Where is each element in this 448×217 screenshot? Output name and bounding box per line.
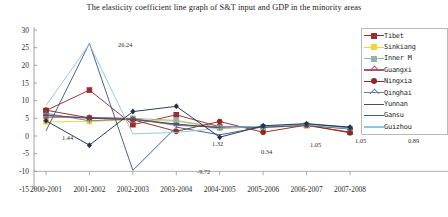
data-point-label: 1.05: [310, 141, 321, 148]
legend-item-label: Tibet: [384, 32, 404, 40]
legend-item-label: Qinghai: [384, 89, 412, 97]
data-point-label: 1.05: [355, 137, 366, 144]
data-point: [174, 113, 179, 118]
legend-item-label: Inner M: [384, 54, 412, 62]
legend-item-guizhou[interactable]: Guizhou: [362, 121, 447, 132]
legend-item-sinkiang[interactable]: Sinkiang: [362, 41, 447, 52]
legend-item-guangxi[interactable]: Guangxi: [362, 64, 447, 75]
legend-swatch-icon: [364, 122, 384, 131]
legend-swatch-icon: [364, 31, 384, 40]
legend-swatch-icon: [364, 65, 384, 74]
legend-swatch-icon: [364, 43, 384, 52]
y-tick-label: 20: [22, 61, 30, 70]
data-point-label: 26.24: [118, 41, 133, 48]
x-tick-label: 2001-2002: [73, 185, 105, 194]
legend-item-inner-m[interactable]: Inner M: [362, 53, 447, 64]
legend-item-yunnan[interactable]: Yunnan: [362, 98, 447, 109]
data-point: [217, 119, 222, 124]
x-tick-label: 2005-2006: [247, 185, 279, 194]
legend-item-gansu[interactable]: Gansu: [362, 110, 447, 121]
y-tick-label: 0: [25, 132, 29, 141]
data-point: [130, 109, 135, 115]
data-point: [173, 123, 179, 125]
data-point: [261, 130, 266, 135]
data-point: [131, 122, 136, 127]
legend-item-label: Guizhou: [384, 123, 412, 131]
data-point-label: 1.44: [62, 134, 74, 141]
data-point: [86, 118, 92, 120]
legend-swatch-icon: [364, 111, 384, 120]
x-tick-label: 2004-2005: [204, 185, 236, 194]
series-line: [46, 43, 350, 170]
data-point-label: 0.34: [261, 148, 273, 155]
series-gansu: [46, 43, 350, 170]
legend-swatch-icon: [364, 77, 384, 86]
y-tick-label: 15: [22, 79, 30, 88]
y-tick-label: -15: [19, 185, 29, 194]
legend-item-ningxia[interactable]: Ningxia: [362, 76, 447, 87]
legend-item-tibet[interactable]: Tibet: [362, 30, 447, 41]
legend-item-label: Gansu: [384, 111, 404, 119]
data-point: [87, 142, 92, 148]
data-point-label: 0.89: [408, 137, 419, 144]
legend-item-label: Guangxi: [384, 66, 412, 74]
legend-swatch-icon: [364, 88, 384, 97]
chart-legend: TibetSinkiangInner MGuangxiNingxiaQingha…: [361, 28, 448, 135]
data-point: [348, 130, 353, 135]
x-tick-label: 2006-2007: [291, 185, 323, 194]
y-tick-label: 30: [22, 26, 30, 35]
legend-item-label: Yunnan: [384, 100, 408, 108]
data-point: [87, 88, 92, 93]
x-tick-label: 2003-2004: [160, 185, 192, 194]
x-tick-label: 2007-2008: [334, 185, 366, 194]
chart-container: The elasticity coefficient line graph of…: [0, 0, 448, 217]
data-point: [130, 119, 136, 121]
legend-swatch-icon: [364, 54, 384, 63]
legend-item-qinghai[interactable]: Qinghai: [362, 87, 447, 98]
x-tick-label: 2002-2003: [117, 185, 149, 194]
y-tick-label: 10: [22, 96, 30, 105]
data-point: [43, 114, 49, 116]
data-point-label: 1.32: [212, 140, 223, 147]
y-tick-label: -10: [19, 167, 29, 176]
data-point: [174, 103, 179, 109]
legend-item-label: Sinkiang: [384, 43, 416, 51]
data-point-label: -9.72: [197, 168, 210, 175]
legend-item-label: Ningxia: [384, 77, 412, 85]
data-point: [174, 129, 179, 134]
legend-swatch-icon: [364, 100, 384, 109]
y-tick-label: 25: [22, 43, 30, 52]
y-tick-label: 5: [25, 114, 29, 123]
x-tick-label: 2000-2001: [30, 185, 62, 194]
y-tick-label: -5: [23, 149, 29, 158]
